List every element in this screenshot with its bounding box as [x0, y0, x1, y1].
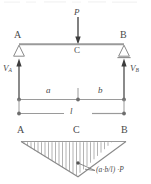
- figure-canvas: [0, 0, 151, 184]
- moment-label-c: C: [73, 125, 80, 135]
- reaction-label-vb: VB: [130, 64, 139, 74]
- moment-peak-formula: (a·b/l) ·P: [96, 166, 124, 174]
- load-point-label-c: C: [74, 46, 80, 55]
- dimension-label-l: l: [70, 107, 73, 116]
- reaction-arrow-vb: [121, 59, 126, 100]
- pin-support-icon: [14, 45, 25, 56]
- roller-support-icon: [117, 45, 130, 57]
- beam-bending-moment-figure: P A B C VA VB a b l A C B (a·b/l) ·P: [0, 0, 151, 184]
- support-label-b: B: [120, 30, 127, 40]
- reaction-arrow-va: [16, 59, 21, 100]
- dimension-label-a: a: [46, 86, 51, 95]
- reaction-label-va: VA: [3, 64, 12, 74]
- load-label-p: P: [74, 8, 80, 17]
- moment-label-a: A: [17, 125, 24, 135]
- moment-label-b: B: [121, 125, 128, 135]
- top-crop-artifact: [4, 1, 137, 3]
- dimension-label-b: b: [98, 86, 103, 95]
- support-label-a: A: [14, 30, 21, 40]
- load-arrow-P: [75, 17, 80, 45]
